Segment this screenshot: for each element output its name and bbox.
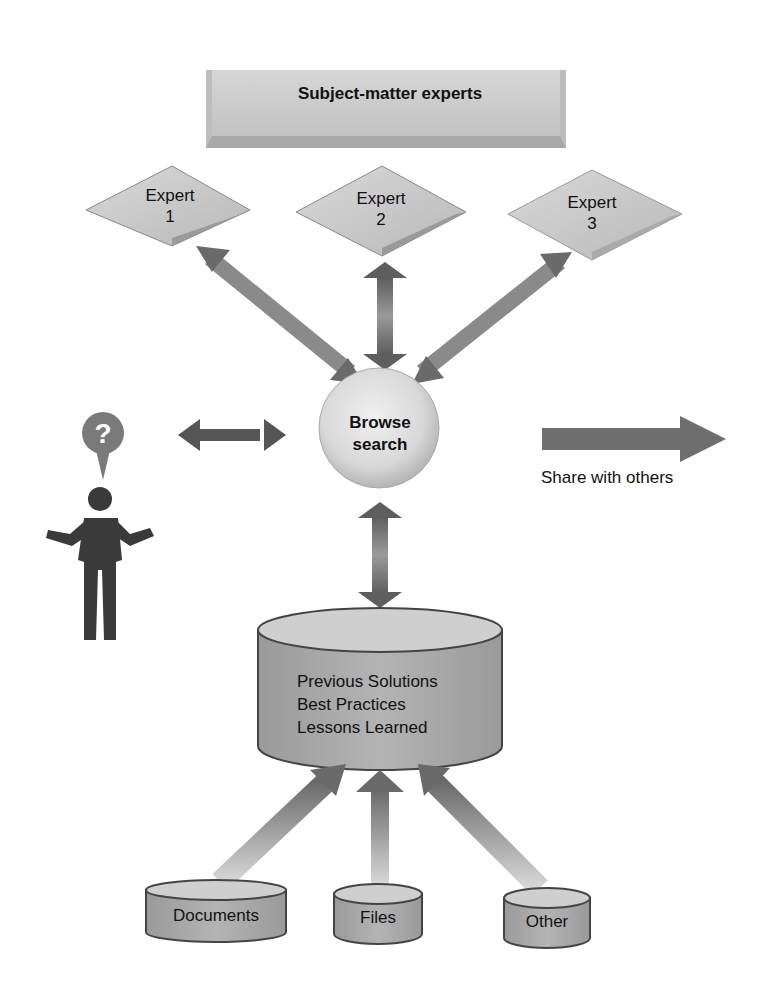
share-with-others-label: Share with others <box>541 468 673 488</box>
expert-2-label-line2: 2 <box>331 209 431 230</box>
subject-matter-experts-box <box>206 70 566 148</box>
files-label: Files <box>334 908 422 928</box>
arrow-user-browse <box>178 419 286 451</box>
diagram-canvas: ? <box>0 0 765 997</box>
other-label: Other <box>504 912 590 932</box>
browse-search-line2: search <box>318 434 442 456</box>
expert-2-label-line1: Expert <box>331 188 431 209</box>
browse-search-label: Browse search <box>318 412 442 456</box>
subject-matter-experts-title: Subject-matter experts <box>210 84 570 104</box>
expert-1-label-line1: Expert <box>120 185 220 206</box>
expert-1-label-line2: 1 <box>120 206 220 227</box>
expert-3-label-line2: 3 <box>542 213 642 234</box>
arrow-files-repository <box>356 770 404 884</box>
repository-line-previous-solutions: Previous Solutions <box>297 670 438 693</box>
expert-1-label: Expert 1 <box>120 185 220 227</box>
documents-label: Documents <box>146 906 286 926</box>
arrow-documents-repository <box>220 764 346 882</box>
repository-label: Previous Solutions Best Practices Lesson… <box>297 670 438 739</box>
expert-3-label: Expert 3 <box>542 192 642 234</box>
expert-2-label: Expert 2 <box>331 188 431 230</box>
arrow-expert2-browse <box>363 262 407 370</box>
person-question-icon: ? <box>46 412 154 640</box>
arrow-expert1-browse <box>196 246 364 384</box>
share-arrow <box>542 416 726 462</box>
repository-line-lessons-learned: Lessons Learned <box>297 716 438 739</box>
arrow-browse-repository <box>358 502 402 608</box>
expert-3-label-line1: Expert <box>542 192 642 213</box>
arrow-expert3-browse <box>412 252 572 384</box>
svg-text:?: ? <box>94 418 111 449</box>
browse-search-line1: Browse <box>318 412 442 434</box>
repository-line-best-practices: Best Practices <box>297 693 438 716</box>
arrow-other-repository <box>418 764 540 888</box>
